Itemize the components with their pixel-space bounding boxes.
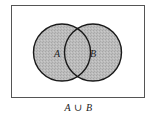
caption-union-operator: ∪ xyxy=(74,102,83,113)
set-a-label: A xyxy=(53,48,61,59)
set-b-label: B xyxy=(90,48,96,59)
caption-set-b: B xyxy=(86,102,93,113)
caption-set-a: A xyxy=(64,102,71,113)
diagram-caption: A ∪ B xyxy=(0,102,151,113)
